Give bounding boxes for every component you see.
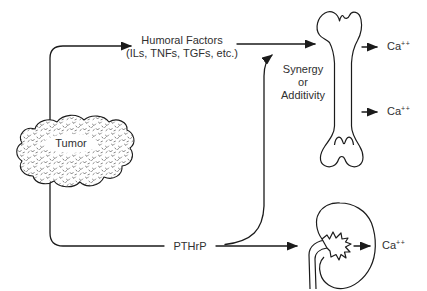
synergy-label: Synergy or Additivity <box>263 63 343 102</box>
ca-output-kidney: Ca++ <box>382 239 405 252</box>
tumor-label: Tumor <box>46 137 96 150</box>
ca-output-bone-lower: Ca++ <box>387 105 410 118</box>
hypercalcemia-pathway-diagram: Humoral Factors (ILs, TNFs, TGFs, etc.) … <box>0 0 427 291</box>
humoral-factors-title: Humoral Factors <box>117 34 247 47</box>
ca-output-bone-upper: Ca++ <box>387 40 410 53</box>
humoral-factors-label: Humoral Factors (ILs, TNFs, TGFs, etc.) <box>117 34 247 60</box>
pthrp-label: PTHrP <box>160 240 220 253</box>
humoral-factors-examples: (ILs, TNFs, TGFs, etc.) <box>117 47 247 60</box>
tumor-icon <box>17 115 134 186</box>
